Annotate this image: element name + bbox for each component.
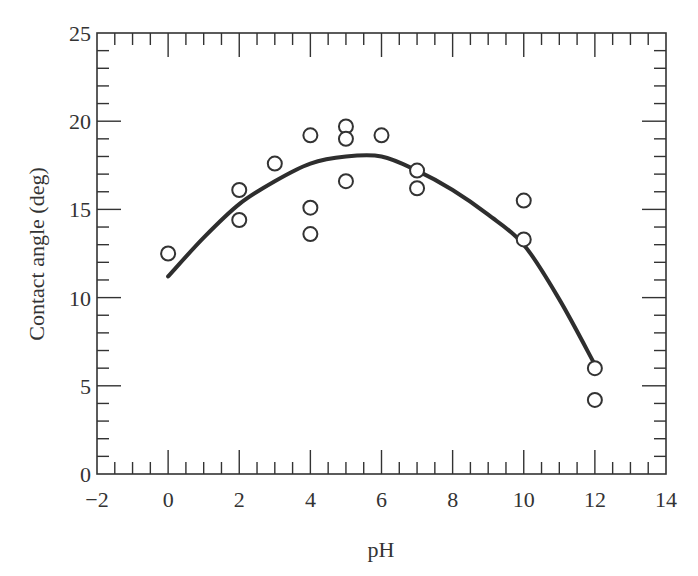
chart: −2024681012140510152025 pH Contact angle… [0, 0, 698, 576]
y-tick-label: 5 [80, 374, 91, 399]
x-tick-label: 8 [447, 487, 458, 512]
data-point-marker [303, 201, 317, 215]
data-point-marker [517, 232, 531, 246]
tick-labels: −2024681012140510152025 [69, 21, 677, 512]
data-point-marker [303, 227, 317, 241]
x-tick-label: 14 [655, 487, 677, 512]
data-point-marker [588, 393, 602, 407]
y-axis-label: Contact angle (deg) [24, 167, 49, 341]
plot-frame [97, 33, 666, 474]
y-tick-label: 25 [69, 21, 91, 46]
x-tick-label: 2 [234, 487, 245, 512]
data-point-marker [588, 361, 602, 375]
data-point-marker [303, 128, 317, 142]
y-tick-label: 0 [80, 462, 91, 487]
y-tick-label: 20 [69, 109, 91, 134]
data-point-marker [410, 181, 424, 195]
y-tick-label: 15 [69, 197, 91, 222]
data-point-marker [232, 183, 246, 197]
y-tick-label: 10 [69, 286, 91, 311]
x-axis-label: pH [368, 537, 395, 562]
data-point-marker [410, 164, 424, 178]
x-tick-label: 10 [513, 487, 535, 512]
axis-ticks [97, 33, 666, 474]
x-tick-label: −2 [85, 487, 108, 512]
data-point-marker [161, 247, 175, 261]
data-point-marker [517, 194, 531, 208]
data-point-marker [375, 128, 389, 142]
x-tick-label: 4 [305, 487, 316, 512]
data-point-marker [268, 157, 282, 171]
x-tick-label: 12 [584, 487, 606, 512]
x-tick-label: 0 [163, 487, 174, 512]
x-tick-label: 6 [376, 487, 387, 512]
plot-border [97, 33, 666, 474]
data-point-marker [339, 132, 353, 146]
data-point-marker [339, 174, 353, 188]
data-point-marker [232, 213, 246, 227]
